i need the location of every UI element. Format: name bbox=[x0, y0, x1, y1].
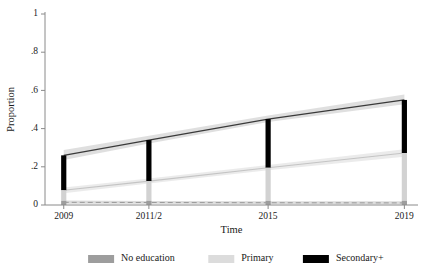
y-tick-label-3: .6 bbox=[31, 85, 38, 95]
marker-2-segment-0 bbox=[266, 119, 271, 168]
y-tick-label-4: .8 bbox=[31, 46, 38, 56]
legend-label-1: Primary bbox=[241, 252, 273, 263]
marker-3-segment-1 bbox=[402, 153, 407, 201]
x-tick-label-1: 2011/2 bbox=[136, 211, 162, 221]
marker-2-segment-1 bbox=[266, 168, 271, 201]
legend-swatch-2 bbox=[303, 255, 329, 263]
fitted-line-2 bbox=[64, 202, 405, 203]
marker-3-segment-0 bbox=[402, 100, 407, 153]
y-tick-label-2: .4 bbox=[31, 123, 38, 133]
legend-label-0: No education bbox=[121, 252, 175, 263]
proportion-over-time-line-chart: 0.2.4.6.81 20092011/220152019 Proportion… bbox=[0, 0, 426, 274]
marker-0-segment-2 bbox=[61, 201, 66, 205]
y-tick-label-1: .2 bbox=[31, 161, 38, 171]
y-tick-label-5: 1 bbox=[33, 8, 38, 18]
chart-figure: 0.2.4.6.81 20092011/220152019 Proportion… bbox=[0, 0, 426, 274]
legend-label-2: Secondary+ bbox=[336, 252, 384, 263]
x-tick-label-0: 2009 bbox=[54, 211, 73, 221]
x-tick-label-3: 2019 bbox=[395, 211, 414, 221]
marker-0-segment-1 bbox=[61, 190, 66, 201]
chart-background bbox=[0, 0, 426, 274]
marker-3-segment-2 bbox=[402, 201, 407, 205]
legend-swatch-1 bbox=[208, 255, 234, 263]
x-tick-label-2: 2015 bbox=[259, 211, 278, 221]
marker-1-segment-1 bbox=[146, 181, 151, 201]
y-tick-label-0: 0 bbox=[33, 199, 38, 209]
marker-0-segment-0 bbox=[61, 155, 66, 190]
legend-swatch-0 bbox=[88, 255, 114, 263]
marker-2-segment-2 bbox=[266, 201, 271, 205]
x-axis-title: Time bbox=[221, 224, 243, 235]
marker-1-segment-0 bbox=[146, 140, 151, 181]
y-axis-title: Proportion bbox=[5, 86, 16, 132]
marker-1-segment-2 bbox=[146, 201, 151, 205]
